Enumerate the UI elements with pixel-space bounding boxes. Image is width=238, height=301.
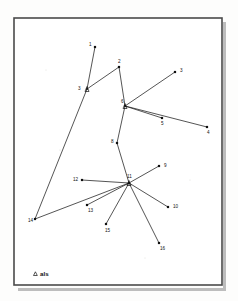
node-label-10: 10 bbox=[173, 204, 179, 209]
node-label-9: 9 bbox=[164, 163, 167, 168]
node-label-3r: 3 bbox=[180, 68, 183, 73]
node-dot bbox=[128, 182, 130, 184]
legend-label: als bbox=[40, 270, 49, 277]
node-label-15: 15 bbox=[105, 228, 111, 233]
node-label-14: 14 bbox=[28, 218, 34, 223]
node-dot bbox=[34, 218, 36, 220]
node-dot bbox=[86, 204, 88, 206]
node-label-12: 12 bbox=[73, 177, 79, 182]
node-dot bbox=[161, 117, 163, 119]
node-label-8: 8 bbox=[111, 139, 114, 144]
node-dot bbox=[86, 88, 88, 90]
node-label-1: 1 bbox=[89, 42, 92, 47]
node-label-4: 4 bbox=[207, 130, 210, 135]
node-dot bbox=[116, 142, 118, 144]
node-dot bbox=[105, 223, 107, 225]
scan-speck bbox=[190, 180, 191, 181]
node-dot bbox=[94, 46, 96, 48]
node-label-5: 5 bbox=[161, 121, 164, 126]
node-label-2: 2 bbox=[118, 59, 121, 64]
node-dot bbox=[118, 66, 120, 68]
scan-speck bbox=[145, 258, 146, 259]
node-label-6: 6 bbox=[121, 99, 124, 104]
node-dot bbox=[167, 206, 169, 208]
node-label-16: 16 bbox=[160, 246, 166, 251]
node-dot bbox=[158, 165, 160, 167]
node-dot bbox=[124, 105, 126, 107]
scan-speck bbox=[46, 70, 47, 71]
node-dot bbox=[81, 179, 83, 181]
network-diagram: 12336548119121013151614 als bbox=[0, 0, 238, 301]
node-dot bbox=[158, 242, 160, 244]
frame-shadow-bottom bbox=[18, 288, 226, 291]
node-label-11: 11 bbox=[127, 174, 132, 179]
scan-speck bbox=[59, 149, 60, 150]
node-label-3l: 3 bbox=[78, 86, 81, 91]
node-label-13: 13 bbox=[88, 208, 94, 213]
node-dot bbox=[206, 126, 208, 128]
figure-container: 12336548119121013151614 als bbox=[0, 0, 238, 301]
node-dot bbox=[174, 71, 176, 73]
frame-shadow-right bbox=[223, 22, 226, 291]
